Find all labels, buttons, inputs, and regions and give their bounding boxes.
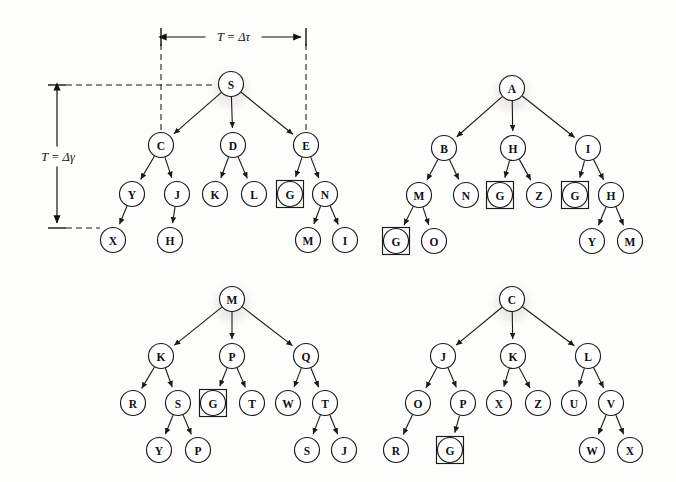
tree-edge [241, 92, 293, 134]
tree-node[interactable]: Z [526, 391, 551, 416]
tree-node[interactable]: I [333, 228, 358, 253]
tree-node[interactable]: I [576, 136, 601, 161]
node-circle [276, 391, 301, 416]
tree-node[interactable]: W [580, 438, 605, 463]
node-circle [101, 228, 126, 253]
tree-node[interactable]: S [295, 438, 320, 463]
tree-edge [165, 157, 172, 177]
tree-node[interactable]: W [276, 391, 301, 416]
tree-edge [174, 307, 222, 345]
node-circle [618, 229, 643, 254]
figure-root: SCDEYJKLGNXHMIABHIMNGZGHGOYMMKPQRSGTWTYP… [0, 0, 676, 482]
tree-edge [580, 161, 585, 178]
node-circle [294, 344, 319, 369]
node-circle [422, 229, 447, 254]
node-circle [526, 391, 551, 416]
tree-node[interactable]: E [294, 133, 319, 158]
tree-node[interactable]: P [451, 391, 476, 416]
tree-node[interactable]: Y [147, 438, 172, 463]
tree-node[interactable]: P [186, 438, 211, 463]
node-circle [313, 182, 338, 207]
tree-edge [594, 160, 604, 180]
tree-edge [311, 157, 319, 178]
tree-node[interactable]: O [422, 229, 447, 254]
node-circle [384, 438, 409, 463]
node-circle [580, 229, 605, 254]
tree-edge [242, 307, 292, 346]
tree-node[interactable]: Y [580, 229, 605, 254]
tree-edge [141, 156, 155, 179]
tree-node[interactable]: J [431, 344, 456, 369]
node-circle [432, 136, 457, 161]
tree-node[interactable]: D [221, 133, 246, 158]
node-circle [333, 228, 358, 253]
tree-node[interactable]: U [562, 391, 587, 416]
tree-node[interactable]: V [599, 391, 624, 416]
tree-node[interactable]: C [149, 133, 174, 158]
tree-node[interactable]: L [242, 182, 267, 207]
tree-node[interactable]: M [220, 287, 245, 312]
node-circle [576, 344, 601, 369]
tree-node[interactable]: R [384, 438, 409, 463]
tree-node[interactable]: H [599, 183, 624, 208]
node-circle [407, 183, 432, 208]
tree-node[interactable]: Z [527, 183, 552, 208]
horizontal-measure-label: T = Δτ [217, 30, 251, 44]
node-circle [158, 228, 183, 253]
tree-node[interactable]: X [487, 391, 512, 416]
tree-node[interactable]: H [158, 228, 183, 253]
tree-node[interactable]: A [500, 76, 525, 101]
tree-edge [598, 415, 606, 434]
node-circle [147, 438, 172, 463]
tree-node[interactable]: M [407, 183, 432, 208]
tree-edge [142, 367, 155, 388]
node-circle [487, 391, 512, 416]
tree-edge [403, 415, 412, 435]
tree-node[interactable]: K [203, 182, 228, 207]
tree-edge [455, 416, 460, 433]
node-circle [219, 72, 244, 97]
node-circle [220, 344, 245, 369]
node-circle [501, 344, 526, 369]
tree-node[interactable]: S [166, 391, 191, 416]
tree-node[interactable]: X [618, 438, 643, 463]
tree-node[interactable]: M [618, 229, 643, 254]
tree-node[interactable]: P [220, 344, 245, 369]
node-circle [278, 182, 303, 207]
tree-node[interactable]: Y [120, 182, 145, 207]
tree-edge [173, 207, 175, 223]
goal-node[interactable]: G [277, 181, 304, 208]
tree-node[interactable]: T [240, 391, 265, 416]
goal-node[interactable]: G [383, 228, 410, 255]
tree-node[interactable]: K [149, 344, 174, 369]
tree-edge [165, 415, 173, 434]
tree-node[interactable]: J [165, 182, 190, 207]
tree-node[interactable]: N [454, 183, 479, 208]
tree-edge [519, 159, 530, 180]
tree-edge [237, 368, 245, 387]
tree-node[interactable]: B [432, 136, 457, 161]
tree-node[interactable]: C [500, 287, 525, 312]
goal-node[interactable]: G [487, 182, 514, 209]
tree-node[interactable]: O [406, 391, 431, 416]
tree-edge [519, 367, 530, 388]
tree-node[interactable]: H [501, 136, 526, 161]
tree-edge [294, 368, 301, 387]
node-circle [242, 182, 267, 207]
tree-node[interactable]: L [576, 344, 601, 369]
tree-node[interactable]: T [313, 391, 338, 416]
tree-node[interactable]: X [101, 228, 126, 253]
node-circle [527, 183, 552, 208]
node-circle [599, 183, 624, 208]
tree-node[interactable]: S [219, 72, 244, 97]
goal-node[interactable]: G [437, 437, 464, 464]
tree-node[interactable]: M [296, 228, 321, 253]
tree-node[interactable]: Q [294, 344, 319, 369]
tree-node[interactable]: K [501, 344, 526, 369]
tree-node[interactable]: J [332, 438, 357, 463]
tree-node[interactable]: R [121, 391, 146, 416]
tree-node[interactable]: N [313, 182, 338, 207]
goal-node[interactable]: G [200, 390, 227, 417]
goal-node[interactable]: G [562, 182, 589, 209]
vertical-measure-label: T = Δγ [41, 150, 76, 164]
